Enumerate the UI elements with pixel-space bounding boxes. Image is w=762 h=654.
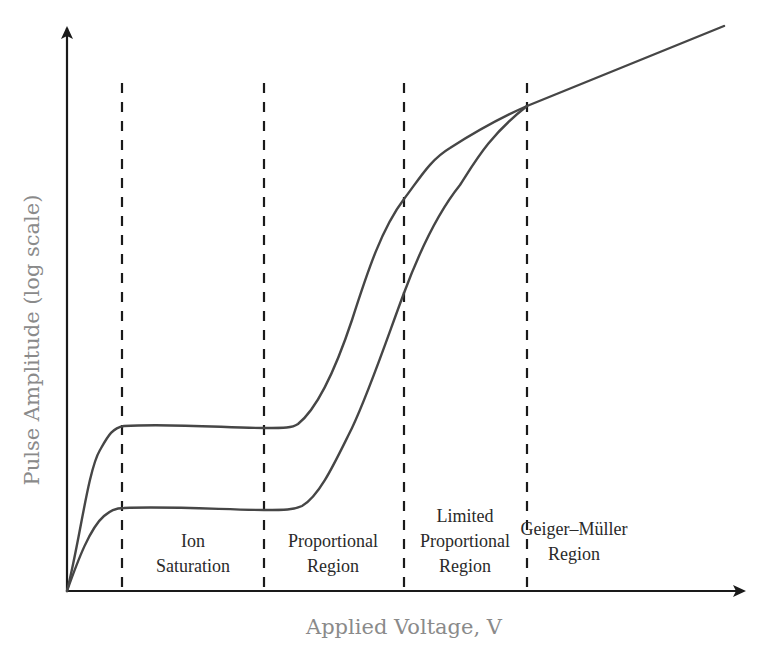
region-label-ion-saturation-line1: Ion	[181, 531, 205, 551]
region-label-limited-proportional-line2: Proportional	[420, 531, 510, 551]
upper-pulse-curve	[67, 26, 724, 591]
gas-detector-regions-diagram: Ion Saturation Proportional Region Limit…	[0, 0, 762, 654]
region-label-limited-proportional-line3: Region	[439, 556, 491, 576]
region-label-geiger-muller-line2: Region	[548, 544, 600, 564]
region-label-limited-proportional-line1: Limited	[437, 506, 494, 526]
x-axis-title: Applied Voltage, V	[305, 615, 503, 639]
region-label-ion-saturation-line2: Saturation	[156, 556, 230, 576]
y-axis-title: Pulse Amplitude (log scale)	[20, 195, 44, 486]
region-label-proportional-line1: Proportional	[288, 531, 378, 551]
region-label-geiger-muller-line1: Geiger–Müller	[521, 519, 628, 539]
region-label-proportional-line2: Region	[307, 556, 359, 576]
